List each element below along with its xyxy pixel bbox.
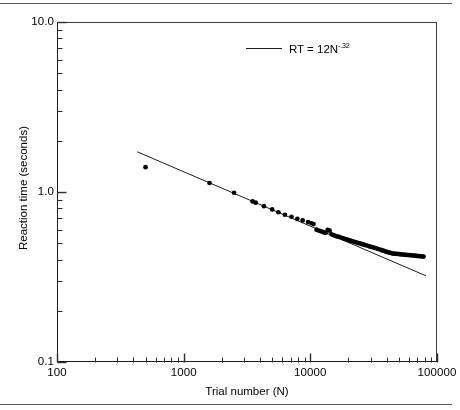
x-axis-tick-labels: 100100010000100000 [0,367,452,383]
y-axis-title: Reaction time (seconds) [17,93,29,283]
x-axis-title: Trial number (N) [57,385,437,397]
plot-area-frame [57,22,437,362]
legend-line-swatch [246,48,282,49]
x-tick-label: 10000 [275,367,345,379]
y-axis-tick-labels: 10.01.00.1 [8,4,54,404]
bottom-divider-rule [0,404,452,405]
y-tick-label: 10.0 [14,16,54,28]
chart-figure: 10.01.00.1 100100010000100000 Trial numb… [0,4,452,404]
x-tick-label: 100 [22,367,92,379]
legend-label: RT = 12N-.32 [289,42,349,55]
legend: RT = 12N-.32 [246,40,349,56]
x-tick-label: 1000 [149,367,219,379]
x-tick-label: 100000 [402,367,460,379]
